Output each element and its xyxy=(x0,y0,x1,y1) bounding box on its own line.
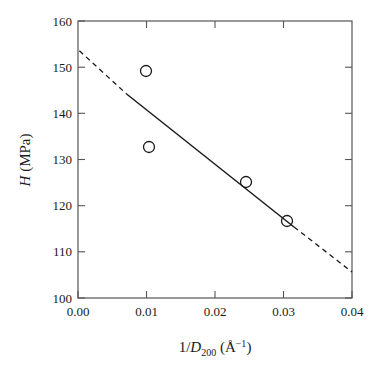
x-tick-label: 0.02 xyxy=(204,304,227,319)
y-tick-label: 130 xyxy=(53,152,73,167)
x-axis-subscript: 200 xyxy=(201,347,216,358)
data-point-marker xyxy=(141,66,152,77)
fit-line-dashed-left xyxy=(79,51,126,94)
plot-frame xyxy=(78,21,352,298)
y-axis-ticks xyxy=(78,21,352,298)
y-tick-label: 140 xyxy=(53,106,73,121)
x-tick-label: 0.03 xyxy=(272,304,295,319)
x-axis-unit-exponent: −1 xyxy=(236,338,247,349)
data-point-marker xyxy=(241,177,252,188)
x-tick-label: 0.00 xyxy=(67,304,90,319)
y-tick-label: 110 xyxy=(53,244,72,259)
x-axis-title: 1/D200 (Å−1) xyxy=(179,338,252,358)
x-tick-label: 0.04 xyxy=(341,304,364,319)
x-axis-symbol: D xyxy=(189,339,201,355)
data-point-marker xyxy=(144,142,155,153)
y-axis-title: H (MPa) xyxy=(17,134,34,188)
y-tick-label: 160 xyxy=(53,14,73,29)
scatter-plot: 100 110 120 130 140 150 160 0.00 0.01 0.… xyxy=(0,0,385,376)
y-axis-unit: (MPa) xyxy=(17,134,34,176)
y-tick-label: 150 xyxy=(53,60,73,75)
y-tick-label: 120 xyxy=(53,198,73,213)
figure-container: 100 110 120 130 140 150 160 0.00 0.01 0.… xyxy=(0,0,385,376)
x-axis-unit-symbol: Å xyxy=(225,339,236,355)
x-axis-unit-open: ( xyxy=(216,339,225,356)
x-tick-label: 0.01 xyxy=(135,304,158,319)
x-axis-ticks xyxy=(78,21,352,298)
x-tick-labels: 0.00 0.01 0.02 0.03 0.04 xyxy=(67,304,364,319)
data-points xyxy=(141,66,293,227)
y-tick-labels: 100 110 120 130 140 150 160 xyxy=(53,14,73,306)
svg-text:H (MPa): H (MPa) xyxy=(17,134,34,188)
x-axis-prefix: 1/ xyxy=(179,339,192,355)
x-axis-unit-close: ) xyxy=(246,339,251,356)
fit-line-dashed-right xyxy=(294,227,352,272)
fit-line-solid xyxy=(127,94,294,227)
